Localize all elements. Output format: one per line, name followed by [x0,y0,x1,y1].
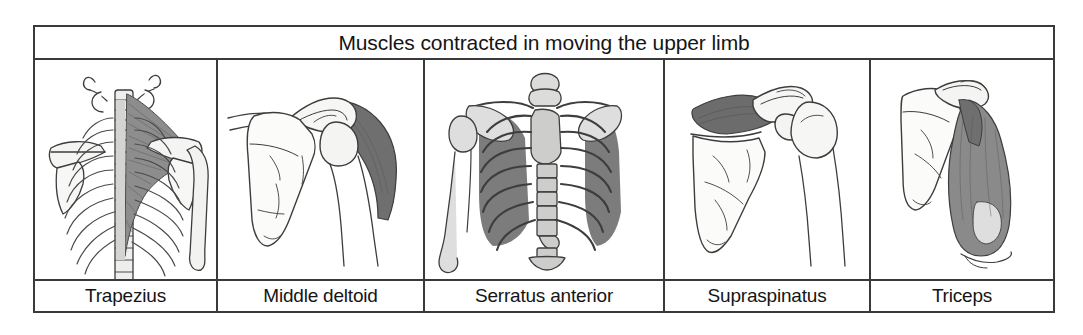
muscle-label: Middle deltoid [263,285,377,307]
illustration-cell-triceps [871,60,1053,279]
muscle-label: Triceps [932,285,992,307]
anterior-ribcage-serratus-anterior-illustration [425,60,663,279]
label-cell-supraspinatus: Supraspinatus [665,281,871,311]
illustration-cell-trapezius [35,60,218,279]
label-cell-triceps: Triceps [871,281,1053,311]
posterior-thorax-trapezius-illustration [35,60,216,279]
muscle-label: Supraspinatus [708,285,827,307]
illustration-row [35,60,1053,281]
anatomy-figure-table: Muscles contracted in moving the upper l… [33,25,1055,313]
illustration-cell-serratus-anterior [425,60,665,279]
muscle-label: Trapezius [85,285,166,307]
label-row: Trapezius Middle deltoid Serratus anteri… [35,281,1053,311]
label-cell-trapezius: Trapezius [35,281,218,311]
muscle-label: Serratus anterior [475,285,613,307]
label-cell-serratus-anterior: Serratus anterior [425,281,665,311]
label-cell-middle-deltoid: Middle deltoid [218,281,425,311]
posterior-humerus-triceps-illustration [873,60,1052,279]
figure-title: Muscles contracted in moving the upper l… [338,31,749,55]
figure-title-row: Muscles contracted in moving the upper l… [35,27,1053,60]
illustration-cell-middle-deltoid [218,60,425,279]
posterior-scapula-supraspinatus-illustration [665,60,869,279]
posterior-scapula-middle-deltoid-illustration [218,60,423,279]
illustration-cell-supraspinatus [665,60,871,279]
